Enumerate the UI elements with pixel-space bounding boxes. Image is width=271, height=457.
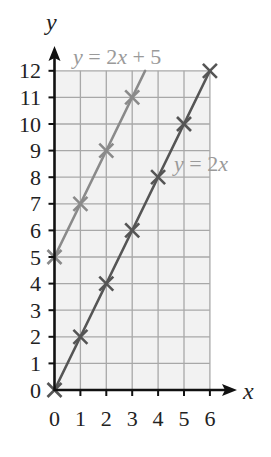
y-tick-label: 2 <box>30 324 41 349</box>
y-tick-label: 0 <box>30 378 41 403</box>
equation-label: y = 2x + 5 <box>71 44 161 69</box>
x-tick-label: 6 <box>204 406 215 431</box>
y-tick-label: 3 <box>30 298 41 323</box>
equation-label: y = 2x <box>172 151 228 176</box>
x-tick-label: 0 <box>49 406 60 431</box>
y-tick-label: 8 <box>30 165 41 190</box>
y-tick-label: 10 <box>19 112 41 137</box>
x-tick-label: 3 <box>127 406 138 431</box>
x-axis-label: x <box>242 378 254 404</box>
y-axis-label: y <box>44 9 57 35</box>
y-tick-label: 12 <box>19 58 41 83</box>
y-tick-label: 11 <box>20 85 41 110</box>
x-tick-label: 1 <box>75 406 86 431</box>
y-tick-label: 9 <box>30 138 41 163</box>
y-tick-label: 1 <box>30 351 41 376</box>
y-tick-label: 5 <box>30 245 41 270</box>
line-chart: 01234560123456789101112 x y y = 2x + 5y … <box>0 0 271 457</box>
y-tick-label: 4 <box>30 271 41 296</box>
x-tick-label: 2 <box>101 406 112 431</box>
x-tick-label: 4 <box>153 406 164 431</box>
y-tick-label: 6 <box>30 218 41 243</box>
x-tick-label: 5 <box>179 406 190 431</box>
y-tick-label: 7 <box>30 191 41 216</box>
